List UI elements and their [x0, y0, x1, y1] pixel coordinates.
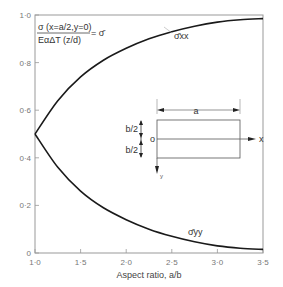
inset-width-label: a — [193, 106, 198, 116]
x-axis-label: Aspect ratio, a/b — [116, 270, 181, 280]
inset-origin-label: o — [150, 134, 155, 144]
inset-plate-diagram: a x y o b/2 b/2 — [125, 99, 264, 179]
x-tick-label: 2·0 — [120, 258, 132, 267]
y-tick-label: 0·2 — [19, 201, 31, 210]
y-tick-label: 0·4 — [19, 154, 31, 163]
y-tick-label: 0·8 — [19, 59, 31, 68]
inset-y-label: y — [160, 173, 163, 179]
y-tick-label: 1·0 — [19, 11, 31, 20]
formula-numerator: σ (x=a/2,y=0) — [38, 22, 92, 32]
formula-denominator: EαΔT (z/d) — [38, 35, 81, 45]
y-tick-label: 0 — [27, 249, 32, 258]
inset-x-label: x — [259, 134, 264, 144]
inset-half-height-top: b/2 — [125, 124, 138, 134]
y-tick-label: 0·6 — [19, 106, 31, 115]
x-tick-label: 1·5 — [75, 258, 87, 267]
x-tick-label: 3·5 — [257, 258, 269, 267]
curve-label-yy: σ̄yy — [188, 227, 203, 237]
formula-result: = σ̄ — [91, 28, 106, 38]
curve-label-xx: σ̄xx — [174, 31, 189, 41]
x-tick-label: 3·0 — [212, 258, 224, 267]
inset-half-height-bottom: b/2 — [125, 145, 138, 155]
chart-canvas: 1·01·52·02·53·03·500·20·40·60·81·0 σ (x=… — [0, 0, 283, 287]
x-tick-label: 2·5 — [166, 258, 178, 267]
x-tick-label: 1·0 — [29, 258, 41, 267]
